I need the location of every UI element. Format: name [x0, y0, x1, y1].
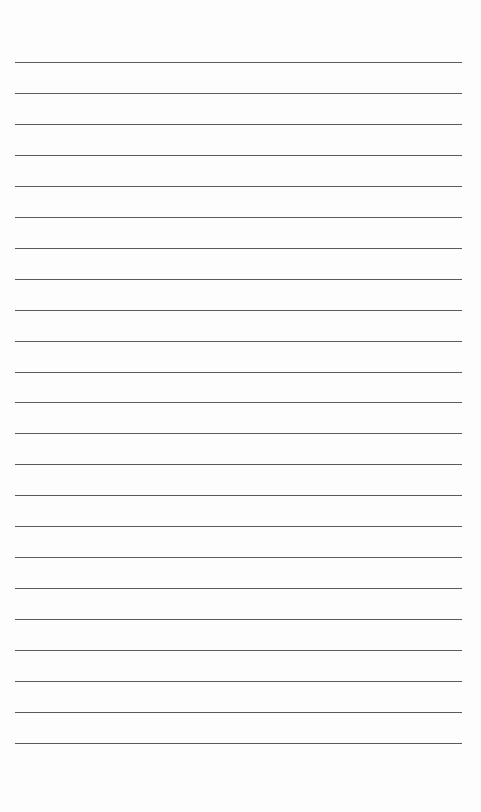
ruled-line	[15, 93, 462, 94]
ruled-line	[15, 433, 462, 434]
ruled-line	[15, 155, 462, 156]
ruled-line	[15, 341, 462, 342]
ruled-line	[15, 372, 462, 373]
ruled-line	[15, 681, 462, 682]
ruled-line	[15, 619, 462, 620]
ruled-line	[15, 588, 462, 589]
ruled-line	[15, 495, 462, 496]
lined-paper-page	[0, 0, 481, 812]
ruled-line	[15, 402, 462, 403]
ruled-line	[15, 279, 462, 280]
ruled-line	[15, 217, 462, 218]
ruled-line	[15, 62, 462, 63]
ruled-line	[15, 650, 462, 651]
ruled-line	[15, 743, 462, 744]
ruled-line	[15, 124, 462, 125]
ruled-line	[15, 186, 462, 187]
ruled-line	[15, 526, 462, 527]
ruled-line	[15, 248, 462, 249]
ruled-line	[15, 557, 462, 558]
ruled-line	[15, 310, 462, 311]
ruled-line	[15, 712, 462, 713]
ruled-line	[15, 464, 462, 465]
